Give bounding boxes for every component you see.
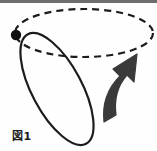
rotation-direction-arrow-icon — [104, 54, 137, 122]
figure-caption-label: 図1 — [12, 130, 32, 144]
intersection-point-dot — [11, 30, 21, 40]
diagram-canvas — [0, 0, 157, 151]
figure-diagram: 図1 — [0, 0, 157, 151]
